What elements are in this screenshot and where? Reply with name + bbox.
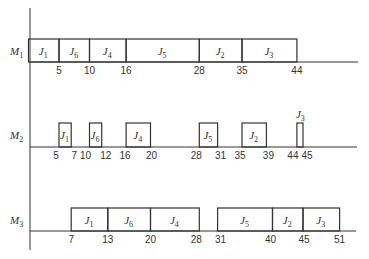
tick-label: 31 (215, 150, 227, 161)
tick-label: 28 (191, 234, 203, 245)
tick-label: 45 (301, 150, 313, 161)
tick-label: 44 (291, 65, 303, 76)
tick-label: 45 (298, 234, 310, 245)
tick-label: 35 (234, 150, 246, 161)
job-label: J2 (216, 45, 225, 60)
job-label: J5 (203, 129, 212, 144)
tick-label: 51 (334, 234, 346, 245)
machine-row-m2: M2J1J6J4J5J2J35710121620283135394445 (9, 108, 357, 161)
machine-label: M3 (9, 214, 23, 229)
tick-label: 39 (263, 150, 275, 161)
job-label: J4 (133, 129, 142, 144)
machine-row-m1: M1J1J6J4J5J2J351016283544 (9, 39, 358, 76)
tick-label: 16 (121, 65, 133, 76)
tick-label: 12 (100, 150, 112, 161)
tick-label: 13 (102, 234, 114, 245)
job-label: J3 (296, 108, 305, 123)
tick-label: 28 (191, 150, 203, 161)
job-label: J2 (249, 129, 258, 144)
tick-label: 16 (120, 150, 132, 161)
job-label: J1 (85, 214, 94, 229)
tick-label: 20 (146, 150, 158, 161)
machine-label: M2 (9, 129, 23, 144)
machine-label: M1 (9, 45, 23, 60)
tick-label: 7 (71, 150, 77, 161)
job-label: J6 (69, 45, 78, 60)
job-label: J6 (124, 214, 133, 229)
job-label: J1 (60, 129, 69, 144)
job-label: J2 (283, 214, 292, 229)
tick-label: 31 (215, 234, 227, 245)
job-label: J3 (316, 214, 325, 229)
tick-label: 40 (265, 234, 277, 245)
job-label: J1 (39, 45, 48, 60)
tick-label: 7 (68, 234, 74, 245)
tick-label: 35 (236, 65, 248, 76)
tick-label: 10 (84, 65, 96, 76)
tick-label: 20 (145, 234, 157, 245)
job-label: J4 (170, 214, 179, 229)
job-label: J3 (264, 45, 273, 60)
tick-label: 5 (56, 65, 62, 76)
tick-label: 44 (287, 150, 299, 161)
job-label: J4 (103, 45, 112, 60)
gantt-chart: M1J1J6J4J5J2J351016283544M2J1J6J4J5J2J35… (0, 0, 369, 259)
machine-row-m3: M3J1J6J4J5J2J3713202831404551 (9, 208, 356, 245)
tick-label: 5 (53, 150, 59, 161)
tick-label: 28 (194, 65, 206, 76)
job-bar (297, 123, 303, 147)
job-label: J5 (158, 45, 167, 60)
job-label: J6 (91, 129, 100, 144)
tick-label: 10 (80, 150, 92, 161)
job-label: J5 (240, 214, 249, 229)
